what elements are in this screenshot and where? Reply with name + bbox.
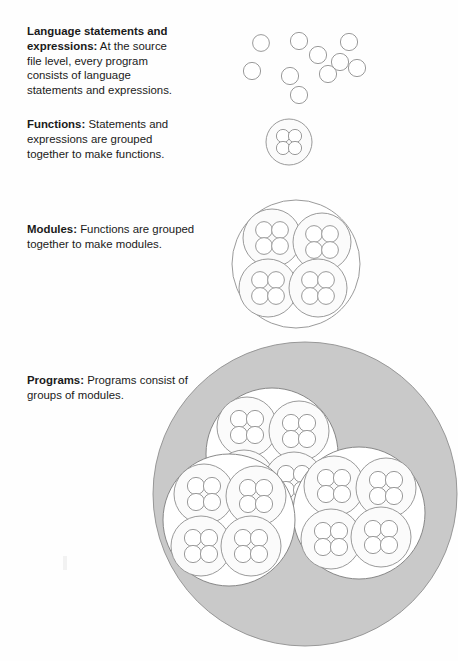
function-statement-cluster xyxy=(364,520,397,553)
statement-circle xyxy=(239,479,256,496)
function-circle xyxy=(356,458,416,518)
statement-circle xyxy=(380,536,397,553)
function-statement-cluster xyxy=(306,226,339,259)
module-function xyxy=(301,509,361,569)
statement-circle xyxy=(234,529,251,546)
statement-circle xyxy=(200,545,217,562)
module-function xyxy=(239,259,297,317)
module-circle xyxy=(293,447,425,579)
statement-circle xyxy=(281,67,298,84)
module-function xyxy=(264,452,324,512)
scan-artifact xyxy=(63,556,67,570)
statement-circle xyxy=(243,479,260,496)
statement-circle xyxy=(293,465,310,482)
function-statement-cluster xyxy=(256,222,289,255)
statement-circle xyxy=(187,493,204,510)
module-function xyxy=(174,464,234,524)
caption-lead: Modules: xyxy=(27,223,77,235)
function-circle xyxy=(304,456,364,516)
caption-language-statements: Language statements and expressions: At … xyxy=(27,24,179,98)
module-function xyxy=(221,516,281,576)
statement-circle xyxy=(317,485,334,502)
function-statement-cluster xyxy=(252,272,285,305)
function-statement-cluster xyxy=(239,479,272,512)
statement-circle xyxy=(314,538,331,555)
function-circle xyxy=(243,209,301,267)
statement-circle xyxy=(203,477,220,494)
statement-circle xyxy=(253,35,270,52)
caption-lead: Programs: xyxy=(27,374,84,386)
module-circle xyxy=(163,454,295,586)
statement-circle xyxy=(302,288,319,305)
function-statement-cluster xyxy=(317,469,350,502)
statement-circle xyxy=(340,33,357,50)
statement-circle xyxy=(252,288,269,305)
statement-circle xyxy=(318,272,335,289)
module-circle xyxy=(206,388,338,520)
program-module xyxy=(163,454,295,586)
module-function xyxy=(289,259,347,317)
statement-circle xyxy=(255,479,272,496)
function-statement-cluster xyxy=(302,272,335,305)
statement-circle xyxy=(282,430,299,447)
statement-circle xyxy=(184,529,201,546)
level-modules xyxy=(232,200,360,328)
statement-circle xyxy=(322,242,339,259)
function-circle xyxy=(293,213,351,271)
program-module xyxy=(293,447,425,579)
statement-circle xyxy=(246,426,263,443)
statement-circle xyxy=(252,272,269,289)
statement-circle xyxy=(200,529,217,546)
function-circle xyxy=(226,466,286,526)
statement-circle xyxy=(230,410,247,427)
statement-circle xyxy=(268,288,285,305)
statement-circle xyxy=(246,410,263,427)
statement-circle xyxy=(288,129,301,142)
function-statement-cluster xyxy=(314,522,347,555)
program-module xyxy=(206,388,338,520)
function-statement-cluster xyxy=(184,529,217,562)
program-hierarchy-figure xyxy=(0,0,458,661)
statement-circle xyxy=(385,487,402,504)
statement-circle xyxy=(293,481,310,498)
statement-circle xyxy=(243,463,260,480)
statement-circle xyxy=(318,288,335,305)
statement-circle xyxy=(227,463,244,480)
function-circle xyxy=(264,452,324,512)
module-function xyxy=(356,458,416,518)
statement-circle xyxy=(276,129,289,142)
statement-circle xyxy=(364,520,381,537)
statement-circle xyxy=(230,426,247,443)
diagram-page: Language statements and expressions: At … xyxy=(0,0,458,661)
statement-circle xyxy=(272,238,289,255)
statement-circle xyxy=(277,465,294,482)
statement-circle xyxy=(272,222,289,239)
statement-circle xyxy=(314,522,331,539)
function-statement-cluster xyxy=(227,463,260,496)
statement-circle xyxy=(298,414,315,431)
statement-circle xyxy=(187,477,204,494)
function-statement-cluster xyxy=(187,477,220,510)
statement-circle xyxy=(243,62,260,79)
module-function xyxy=(171,516,231,576)
statement-circle xyxy=(298,430,315,447)
statement-circle xyxy=(277,481,294,498)
statement-circle xyxy=(256,238,273,255)
function-circle xyxy=(214,450,274,510)
function-statement-cluster xyxy=(282,414,315,447)
function-circle xyxy=(351,507,411,567)
statement-circle xyxy=(276,141,289,154)
statement-circle xyxy=(385,471,402,488)
statement-circle xyxy=(306,226,323,243)
function-circle xyxy=(174,464,234,524)
function-circle xyxy=(217,397,277,457)
statement-circle xyxy=(282,414,299,431)
statement-circle xyxy=(330,538,347,555)
module-function xyxy=(293,213,351,271)
function-statement-cluster xyxy=(234,529,267,562)
statement-circle xyxy=(255,495,272,512)
statement-circle xyxy=(256,222,273,239)
statement-circle xyxy=(333,485,350,502)
function-circle xyxy=(269,401,329,461)
statement-circle xyxy=(364,536,381,553)
